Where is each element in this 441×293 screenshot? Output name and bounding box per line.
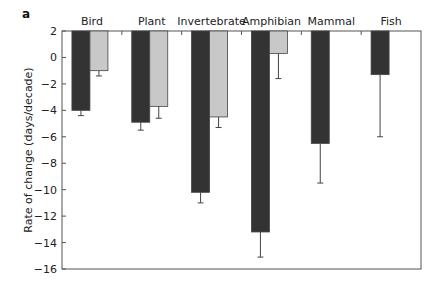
plot-area xyxy=(62,31,421,269)
category-label: Plant xyxy=(138,15,166,28)
y-tick-label: −10 xyxy=(34,184,57,197)
y-tick-label: −6 xyxy=(41,131,57,144)
y-tick-label: −8 xyxy=(41,157,57,170)
y-tick-label: −16 xyxy=(34,263,57,276)
category-label: Amphibian xyxy=(242,15,301,28)
bar-series-light xyxy=(210,31,228,117)
category-label: Mammal xyxy=(308,15,355,28)
bar-series-dark xyxy=(132,31,150,122)
y-tick-label: −12 xyxy=(34,210,57,223)
bar-series-dark xyxy=(192,31,210,192)
panel-label: a xyxy=(22,7,30,21)
y-tick-label: −4 xyxy=(41,104,57,117)
category-label: Bird xyxy=(81,15,103,28)
category-label: Fish xyxy=(380,15,401,28)
plot-frame xyxy=(62,31,421,269)
bar-series-light xyxy=(90,31,108,71)
y-axis: 20−2−4−6−8−10−12−14−16 xyxy=(34,25,66,276)
bar-series-dark xyxy=(251,31,269,232)
category-label: Invertebrate xyxy=(177,15,246,28)
bar-series-light xyxy=(150,31,168,106)
y-axis-title: Rate of change (days/decade) xyxy=(22,67,35,232)
bar-chart: a Rate of change (days/decade) 20−2−4−6−… xyxy=(0,0,441,293)
y-tick-label: 2 xyxy=(50,25,57,38)
y-tick-label: −14 xyxy=(34,237,57,250)
bar-series-dark xyxy=(72,31,90,110)
bar-series-dark xyxy=(371,31,389,75)
bar-series-dark xyxy=(311,31,329,143)
bar-series-light xyxy=(269,31,287,53)
category-labels: BirdPlantInvertebrateAmphibianMammalFish xyxy=(81,15,402,28)
y-tick-label: 0 xyxy=(50,51,57,64)
y-tick-label: −2 xyxy=(41,78,57,91)
